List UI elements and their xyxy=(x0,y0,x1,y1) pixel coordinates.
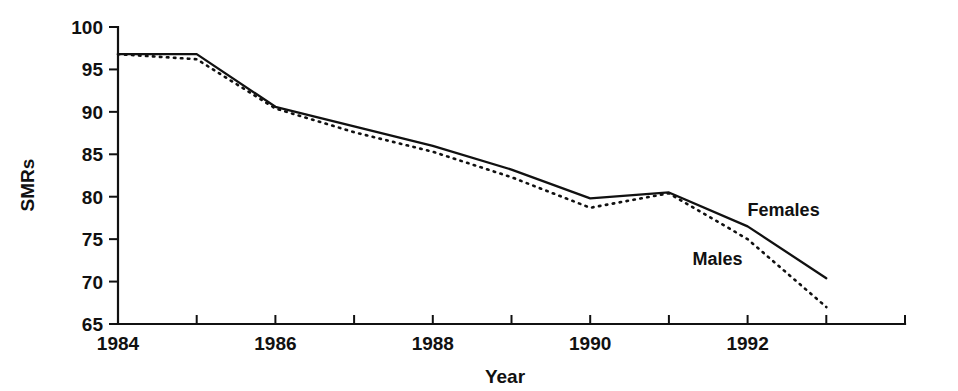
chart-figure: 65707580859095100 19841986198819901992 F… xyxy=(0,0,958,391)
series-label-females: Females xyxy=(748,200,820,220)
y-tick-label: 80 xyxy=(82,187,103,208)
y-tick-label: 70 xyxy=(82,272,103,293)
x-axis-title: Year xyxy=(485,366,526,387)
y-tick-label: 65 xyxy=(82,314,104,335)
series-line-females xyxy=(118,54,826,278)
smr-trend-line-chart: 65707580859095100 19841986198819901992 F… xyxy=(0,0,958,391)
y-axis-title: SMRs xyxy=(17,159,38,212)
x-tick-label: 1986 xyxy=(254,333,296,354)
y-tick-label: 85 xyxy=(82,144,104,165)
series-label-males: Males xyxy=(693,249,743,269)
x-tick-label: 1992 xyxy=(726,333,768,354)
x-tick-label: 1984 xyxy=(97,333,140,354)
y-tick-label: 100 xyxy=(71,17,103,38)
y-tick-label: 90 xyxy=(82,102,103,123)
x-tick-label: 1990 xyxy=(569,333,611,354)
y-tick-label: 95 xyxy=(82,59,104,80)
y-tick-label: 75 xyxy=(82,229,104,250)
y-axis: 65707580859095100 xyxy=(71,17,118,335)
x-axis: 19841986198819901992 xyxy=(97,315,905,354)
x-tick-label: 1988 xyxy=(412,333,454,354)
